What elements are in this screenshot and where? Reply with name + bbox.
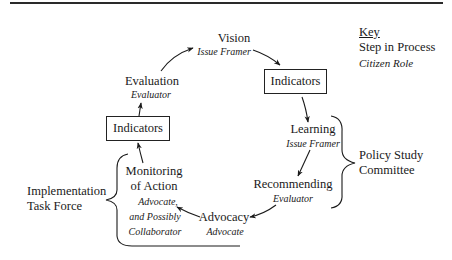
role-advocacy: Advocate — [198, 226, 252, 238]
group-implementation-line1: Implementation — [27, 184, 106, 199]
arrow-learning-to-recommending — [298, 150, 310, 176]
role-monitoring-line1: Advocate, — [128, 196, 188, 208]
indicators-right-label: Indicators — [271, 74, 321, 89]
arrow-monitoring-to-indicators — [138, 143, 143, 163]
role-monitoring-line3: Collaborator — [124, 226, 186, 238]
role-recommending: Evaluator — [263, 193, 323, 205]
step-recommending: Recommending — [250, 177, 336, 191]
step-learning: Learning — [280, 122, 346, 136]
group-implementation-line2: Task Force — [27, 199, 82, 214]
role-evaluation: Evaluator — [121, 89, 181, 101]
group-policy-study-line2: Committee — [359, 163, 415, 178]
role-learning: Issue Framer — [280, 138, 346, 150]
legend-title: Key — [359, 25, 380, 40]
arrow-recommending-to-advocacy — [250, 205, 276, 217]
arrow-indicators-to-learning — [302, 97, 308, 122]
indicators-box-right: Indicators — [264, 69, 327, 94]
legend-role-label: Citizen Role — [359, 56, 413, 71]
step-evaluation: Evaluation — [116, 74, 188, 88]
step-monitoring-line2: of Action — [124, 179, 184, 193]
group-policy-study-line1: Policy Study — [359, 148, 423, 163]
step-advocacy: Advocacy — [198, 210, 250, 224]
arrow-vision-to-indicators — [253, 50, 280, 65]
role-vision: Issue Framer — [194, 46, 254, 58]
step-vision: Vision — [204, 31, 264, 45]
role-monitoring-line2: and Possibly — [124, 211, 186, 223]
arrow-indicators-to-evaluation — [139, 103, 141, 116]
arrow-evaluation-to-vision — [161, 48, 193, 71]
legend-step-label: Step in Process — [359, 40, 435, 55]
indicators-left-label: Indicators — [113, 121, 163, 136]
indicators-box-left: Indicators — [106, 116, 170, 141]
step-monitoring-line1: Monitoring — [124, 164, 184, 178]
